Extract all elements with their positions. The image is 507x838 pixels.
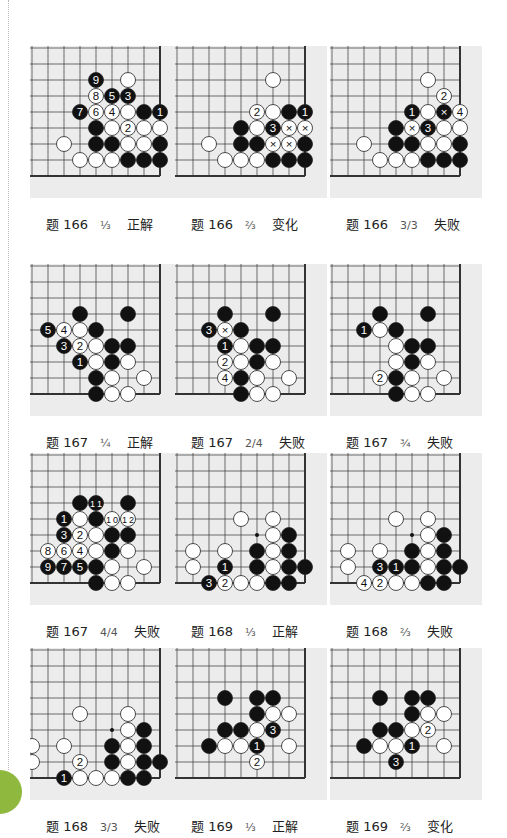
problem-cell: 2413题 168⅔失败 xyxy=(330,453,480,643)
svg-text:2: 2 xyxy=(377,577,383,589)
black-stone xyxy=(437,576,452,591)
diagram-fraction: 3/3 xyxy=(100,821,118,834)
white-stone: 4 xyxy=(57,323,72,338)
white-stone xyxy=(437,707,452,722)
diagram-fraction: ¾ xyxy=(400,437,411,450)
svg-text:4: 4 xyxy=(77,545,84,557)
black-stone xyxy=(405,707,420,722)
svg-text:1: 1 xyxy=(254,740,260,752)
black-stone xyxy=(266,307,281,322)
svg-text:1: 1 xyxy=(61,513,67,525)
white-stone xyxy=(105,153,120,168)
black-stone: 3 xyxy=(373,560,388,575)
white-stone: 8 xyxy=(41,544,56,559)
black-stone xyxy=(421,307,436,322)
problem-caption: 题 1674/4失败 xyxy=(30,621,180,640)
black-stone xyxy=(153,137,168,152)
diagram-result: 正解 xyxy=(127,432,153,451)
black-stone xyxy=(405,544,420,559)
problem-number: 题 168 xyxy=(346,621,388,640)
white-stone xyxy=(234,339,249,354)
white-stone xyxy=(234,739,249,754)
white-stone: × xyxy=(218,323,233,338)
black-stone xyxy=(421,576,436,591)
black-stone xyxy=(153,153,168,168)
white-stone xyxy=(30,755,40,770)
white-stone xyxy=(105,371,120,386)
black-stone xyxy=(389,323,404,338)
white-stone xyxy=(453,121,468,136)
black-stone xyxy=(282,105,297,120)
black-stone: 3 xyxy=(57,339,72,354)
black-stone xyxy=(389,121,404,136)
black-stone: 1 xyxy=(389,560,404,575)
white-stone xyxy=(30,739,40,754)
white-stone: × xyxy=(405,121,420,136)
white-stone xyxy=(266,512,281,527)
white-stone xyxy=(73,707,88,722)
white-stone xyxy=(202,137,217,152)
black-stone xyxy=(282,560,297,575)
svg-text:1: 1 xyxy=(77,356,83,368)
white-stone: × xyxy=(282,121,297,136)
black-stone xyxy=(137,755,152,770)
white-stone xyxy=(389,512,404,527)
svg-text:2: 2 xyxy=(254,756,260,768)
black-stone xyxy=(137,739,152,754)
svg-text:3: 3 xyxy=(125,90,131,102)
white-stone xyxy=(73,153,88,168)
black-stone xyxy=(234,387,249,402)
problem-number: 题 167 xyxy=(346,432,388,451)
diagram-result: 变化 xyxy=(272,214,298,233)
black-stone xyxy=(250,355,265,370)
black-stone xyxy=(89,121,104,136)
black-stone xyxy=(202,739,217,754)
white-stone xyxy=(89,153,104,168)
svg-text:5: 5 xyxy=(45,324,51,336)
black-stone xyxy=(421,691,436,706)
black-stone xyxy=(282,528,297,543)
white-stone: 2 xyxy=(121,121,136,136)
white-stone xyxy=(341,560,356,575)
go-board-diagram: 231 xyxy=(175,453,327,605)
black-stone xyxy=(137,105,152,120)
black-stone xyxy=(218,307,233,322)
svg-text:6: 6 xyxy=(93,106,99,118)
black-stone xyxy=(234,323,249,338)
problem-caption: 题 166⅓正解 xyxy=(30,214,180,233)
white-stone xyxy=(421,528,436,543)
white-stone xyxy=(121,387,136,402)
white-stone xyxy=(373,544,388,559)
white-stone xyxy=(357,137,372,152)
problem-caption: 题 169⅔变化 xyxy=(330,816,480,835)
white-stone xyxy=(186,560,201,575)
black-stone xyxy=(373,723,388,738)
black-stone xyxy=(121,339,136,354)
white-stone xyxy=(421,73,436,88)
white-stone: 10 xyxy=(105,512,120,527)
black-stone xyxy=(121,771,136,786)
white-stone xyxy=(421,707,436,722)
white-stone xyxy=(405,387,420,402)
svg-text:1: 1 xyxy=(393,561,399,573)
svg-text:2: 2 xyxy=(222,577,228,589)
white-stone xyxy=(266,544,281,559)
diagram-fraction: ¼ xyxy=(100,437,111,450)
white-stone: 4 xyxy=(218,371,233,386)
black-stone xyxy=(250,544,265,559)
black-stone: 1 xyxy=(73,355,88,370)
problem-cell: 213题 169⅓正解 xyxy=(175,648,325,838)
black-stone xyxy=(218,723,233,738)
white-stone xyxy=(389,355,404,370)
problem-number: 题 168 xyxy=(191,621,233,640)
diagram-fraction: ⅓ xyxy=(245,821,256,834)
svg-text:12: 12 xyxy=(122,515,134,525)
black-stone xyxy=(137,771,152,786)
black-stone xyxy=(298,137,313,152)
white-stone xyxy=(266,355,281,370)
svg-text:3: 3 xyxy=(270,724,276,736)
white-stone xyxy=(250,153,265,168)
black-stone xyxy=(389,387,404,402)
diagram-fraction: ⅔ xyxy=(245,219,256,232)
svg-text:2: 2 xyxy=(425,724,431,736)
